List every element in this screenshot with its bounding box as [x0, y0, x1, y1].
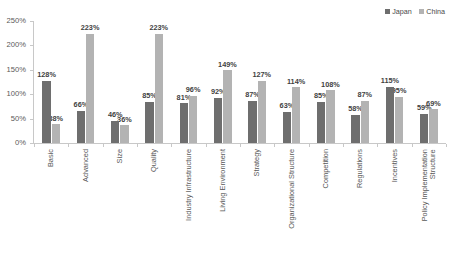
bar-group [77, 21, 94, 143]
bar-japan[interactable] [111, 121, 119, 143]
bar-china[interactable] [429, 109, 437, 143]
x-axis-tick-mark [171, 144, 172, 147]
x-axis-tick-mark [309, 144, 310, 147]
x-axis-category-label: Size [116, 149, 124, 163]
x-axis-category-label: Policy ImplementationStructure [421, 149, 438, 221]
bar-china[interactable] [189, 96, 197, 143]
x-axis-category-label-line: Regulations [356, 149, 364, 188]
legend-swatch-icon [385, 9, 390, 14]
y-axis-tick-label: 250% [7, 17, 26, 25]
x-axis-tick-mark [343, 144, 344, 147]
bar-group [180, 21, 197, 143]
y-axis-tick-label: 50% [11, 115, 26, 123]
x-axis-tick-mark [412, 144, 413, 147]
x-axis-category-label-line: Incentives [390, 149, 398, 182]
x-axis-category-label: Strategy [253, 149, 261, 177]
y-axis-tick-label: 100% [7, 90, 26, 98]
bar-group [42, 21, 59, 143]
bar-group [351, 21, 368, 143]
x-axis-category-label: Advanced [81, 149, 89, 182]
x-axis-tick-mark [103, 144, 104, 147]
chart-legend: JapanChina [385, 8, 445, 15]
y-axis-tick-mark [30, 94, 33, 95]
bar-group [111, 21, 128, 143]
x-axis-category-label-line: Industry Infrastructure [184, 149, 192, 221]
bar-japan[interactable] [214, 98, 222, 143]
x-axis-category-label: Industry Infrastructure [184, 149, 192, 221]
x-axis-category-label-line: Quality [150, 149, 158, 172]
bar-japan[interactable] [420, 114, 428, 143]
x-axis-tick-mark [68, 144, 69, 147]
y-axis-tick-mark [30, 143, 33, 144]
x-axis-tick-mark [240, 144, 241, 147]
y-axis-tick-label: 200% [7, 42, 26, 50]
x-axis-category-label: Incentives [390, 149, 398, 182]
x-axis-tick-mark [137, 144, 138, 147]
bar-china[interactable] [395, 97, 403, 143]
x-axis-category-label: Regulations [356, 149, 364, 188]
x-axis-category-label: Organizational Structure [287, 149, 295, 229]
x-axis-category-label-line: Structure [429, 149, 437, 221]
bar-china[interactable] [258, 81, 266, 143]
bar-japan[interactable] [351, 115, 359, 143]
x-axis-category-label: Basic [47, 149, 55, 167]
legend-label: Japan [392, 8, 412, 15]
x-axis-category-label: Living Environment [219, 149, 227, 212]
bar-japan[interactable] [77, 111, 85, 143]
bar-china[interactable] [223, 70, 231, 143]
bar-group [248, 21, 265, 143]
x-axis-category-label-line: Basic [47, 149, 55, 167]
bar-china[interactable] [326, 90, 334, 143]
bar-group [283, 21, 300, 143]
bar-group [386, 21, 403, 143]
x-axis-tick-mark [377, 144, 378, 147]
y-axis: 0%50%100%150%200%250% [0, 14, 30, 150]
legend-label: China [426, 8, 445, 15]
bar-group [317, 21, 334, 143]
x-axis-category-label-line: Advanced [81, 149, 89, 182]
y-axis-tick-mark [30, 45, 33, 46]
x-axis-category-label: Quality [150, 149, 158, 172]
x-axis-category-label-line: Strategy [253, 149, 261, 177]
y-axis-tick-label: 150% [7, 66, 26, 74]
bar-china[interactable] [120, 125, 128, 143]
bar-japan[interactable] [145, 102, 153, 143]
bar-japan[interactable] [386, 87, 394, 143]
y-axis-tick-label: 0% [15, 139, 26, 147]
bar-chart: JapanChina 0%50%100%150%200%250% 128%38%… [0, 0, 451, 255]
bar-china[interactable] [292, 87, 300, 143]
x-axis-category-label-line: Living Environment [219, 149, 227, 212]
x-axis-tick-mark [274, 144, 275, 147]
bar-china[interactable] [52, 124, 60, 143]
bar-china[interactable] [361, 101, 369, 143]
bar-japan[interactable] [42, 81, 50, 143]
plot-area: 128%38%66%223%46%36%85%223%81%96%92%149%… [34, 21, 446, 143]
bar-japan[interactable] [248, 101, 256, 143]
x-axis-tick-mark [446, 144, 447, 147]
legend-item-china[interactable]: China [419, 8, 445, 15]
x-axis-category-label-line: Size [116, 149, 124, 163]
bar-group [420, 21, 437, 143]
bar-japan[interactable] [180, 103, 188, 143]
bar-group [145, 21, 162, 143]
y-axis-tick-mark [30, 70, 33, 71]
bar-group [214, 21, 231, 143]
bar-china[interactable] [155, 34, 163, 143]
legend-swatch-icon [419, 9, 424, 14]
bar-japan[interactable] [283, 112, 291, 143]
x-axis-category-label: Competition [322, 149, 330, 188]
legend-item-japan[interactable]: Japan [385, 8, 412, 15]
y-axis-tick-mark [30, 21, 33, 22]
bar-japan[interactable] [317, 102, 325, 143]
bar-china[interactable] [86, 34, 94, 143]
x-axis-category-label-line: Organizational Structure [287, 149, 295, 229]
x-axis-tick-mark [34, 144, 35, 147]
x-axis-category-label-line: Competition [322, 149, 330, 188]
y-axis-tick-mark [30, 119, 33, 120]
x-axis-tick-mark [206, 144, 207, 147]
